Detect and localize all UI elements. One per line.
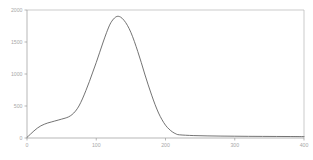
x-axis: 0100200300400 — [26, 138, 309, 148]
plot-frame — [27, 10, 304, 138]
y-axis-ticks: 0500100015002000 — [11, 7, 27, 141]
chart-container: 0500100015002000 0100200300400 — [0, 0, 313, 160]
x-tick-label: 0 — [26, 142, 29, 148]
x-tick-label: 100 — [92, 142, 101, 148]
distribution-line-chart: 0500100015002000 0100200300400 — [0, 0, 313, 160]
y-tick-label: 2000 — [11, 7, 23, 13]
x-tick-label: 200 — [161, 142, 170, 148]
x-axis-ticks: 0100200300400 — [26, 138, 309, 148]
data-series-distribution — [27, 16, 304, 137]
y-tick-label: 500 — [14, 103, 23, 109]
y-axis: 0500100015002000 — [11, 7, 27, 141]
y-tick-label: 1500 — [11, 39, 23, 45]
x-tick-label: 300 — [230, 142, 239, 148]
y-tick-label: 0 — [20, 135, 23, 141]
y-tick-label: 1000 — [11, 71, 23, 77]
x-tick-label: 400 — [300, 142, 309, 148]
